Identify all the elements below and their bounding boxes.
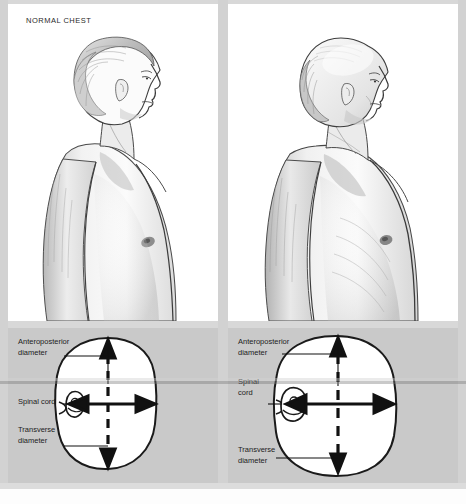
label-line-2: diameter (238, 455, 275, 466)
label-line-2: cord (238, 387, 259, 398)
label-transverse-diameter-left: Transverse diameter (18, 424, 55, 446)
chest-comparison-figure: NORMAL CHEST (0, 0, 466, 504)
normal-chest-illustration (8, 4, 218, 321)
panel-normal-chest-photo: NORMAL CHEST (8, 4, 218, 321)
panel-barrel-chest-photo: BARREL CHEST (228, 4, 458, 321)
label-spinal-cord-right: Spinal cord (238, 376, 259, 398)
barrel-chest-illustration (228, 4, 458, 321)
label-line-1: Spinal cord (18, 396, 56, 407)
label-line-2: diameter (18, 347, 69, 358)
frame-left-edge (0, 0, 8, 484)
frame-center-gutter (218, 0, 228, 484)
label-line-1: Transverse (238, 444, 275, 455)
label-line-1: Transverse (18, 424, 55, 435)
label-spinal-cord-left: Spinal cord (18, 396, 56, 407)
label-line-2: diameter (18, 435, 55, 446)
frame-right-edge (458, 0, 466, 484)
label-transverse-diameter-right: Transverse diameter (238, 444, 275, 466)
label-line-1: Anteroposterior (238, 336, 289, 347)
label-anteroposterior-diameter-right: Anteroposterior diameter (238, 336, 289, 358)
label-line-1: Anteroposterior (18, 336, 69, 347)
label-line-2: diameter (238, 347, 289, 358)
label-line-1: Spinal (238, 376, 259, 387)
label-anteroposterior-diameter-left: Anteroposterior diameter (18, 336, 69, 358)
caption-normal-chest: NORMAL CHEST (26, 16, 91, 25)
frame-white-margin (0, 489, 466, 504)
